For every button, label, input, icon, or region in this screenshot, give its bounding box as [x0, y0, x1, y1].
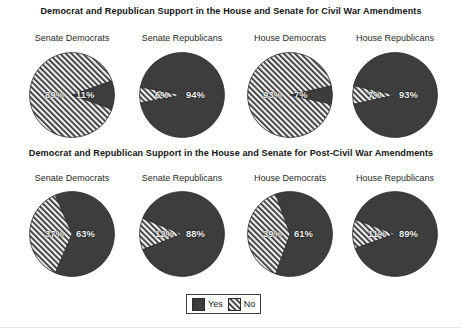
- pie-label: House Democrats: [230, 173, 350, 183]
- pie-chart: [139, 191, 225, 277]
- panel-title-civil-war: Democrat and Republican Support in the H…: [0, 6, 462, 16]
- legend: Yes No: [186, 294, 261, 314]
- pie-label: Senate Republicans: [122, 33, 242, 43]
- pie-label: House Republicans: [335, 173, 455, 183]
- pie-chart: [139, 52, 225, 138]
- pie-chart: [247, 52, 333, 138]
- pie-chart: [352, 191, 438, 277]
- pie-label: Senate Republicans: [122, 173, 242, 183]
- figure-canvas: Democrat and Republican Support in the H…: [0, 0, 462, 328]
- pie-label: Senate Democrats: [12, 173, 132, 183]
- pie-label: House Democrats: [230, 33, 350, 43]
- legend-swatch-no: [228, 298, 241, 311]
- legend-label-yes: Yes: [208, 300, 223, 309]
- pie-label: House Republicans: [335, 33, 455, 43]
- pie-chart: [247, 191, 333, 277]
- pie-chart: [29, 52, 115, 138]
- panel-title-post-civil-war: Democrat and Republican Support in the H…: [0, 148, 462, 158]
- legend-swatch-yes: [192, 298, 205, 311]
- legend-entry-yes: Yes: [192, 298, 223, 311]
- legend-label-no: No: [244, 300, 256, 309]
- pie-chart: [29, 191, 115, 277]
- pie-chart: [352, 52, 438, 138]
- legend-entry-no: No: [228, 298, 256, 311]
- pie-label: Senate Democrats: [12, 33, 132, 43]
